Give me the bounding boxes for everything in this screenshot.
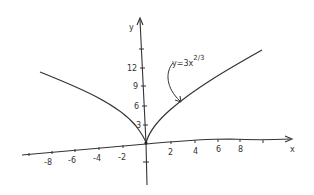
- curve-right-branch: [146, 50, 262, 143]
- x-tick-label: -2: [118, 153, 126, 162]
- x-tick-label: -4: [93, 154, 101, 163]
- x-tick-labels: -8 -6 -4 -2 2 4 6 8 x: [44, 145, 295, 167]
- pointer-arrow: [168, 63, 180, 101]
- y-ticks: [139, 49, 149, 162]
- curve-left-branch: [40, 72, 146, 143]
- y-tick-labels: 3 6 9 12 y: [127, 23, 141, 130]
- x-tick-label: 2: [168, 148, 173, 157]
- equation-label: y=3x2/3: [172, 54, 205, 68]
- y-axis: [140, 20, 147, 185]
- origin-point: [144, 141, 147, 144]
- x-axis: [22, 139, 290, 155]
- y-tick-label: 9: [133, 82, 138, 91]
- x-tick-label: 6: [216, 145, 221, 154]
- x-tick-label: -8: [44, 158, 52, 167]
- y-axis-label: y: [129, 23, 134, 32]
- y-tick-label: 12: [127, 64, 137, 73]
- x-axis-label: x: [290, 145, 295, 154]
- graph-canvas: -8 -6 -4 -2 2 4 6 8 x 3 6 9 12 y y=3x2/3: [0, 0, 314, 195]
- y-tick-label: 6: [134, 102, 139, 111]
- equation-exponent: 2/3: [193, 54, 204, 62]
- x-tick-label: 4: [193, 147, 198, 156]
- x-tick-label: -6: [68, 156, 76, 165]
- x-tick-label: 8: [238, 145, 243, 154]
